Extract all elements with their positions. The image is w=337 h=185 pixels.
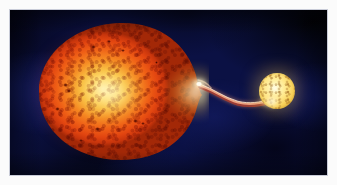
primary-star-core-glow xyxy=(75,63,149,123)
starspot xyxy=(79,139,83,142)
starspot xyxy=(67,89,71,93)
starspot xyxy=(91,45,96,49)
starspot xyxy=(141,122,145,125)
starspot xyxy=(121,49,125,52)
companion-star-limb xyxy=(259,73,295,109)
binary-star-illustration xyxy=(0,0,337,185)
starspot xyxy=(155,61,158,64)
starspot xyxy=(95,127,100,131)
starspot xyxy=(55,107,60,111)
starspot xyxy=(133,119,138,123)
starspot xyxy=(63,83,68,87)
red-giant-primary xyxy=(37,23,202,160)
starspot xyxy=(107,40,111,43)
space-background-plate xyxy=(10,10,327,175)
companion-accretor xyxy=(259,73,295,109)
primary-star-cusp-glow xyxy=(149,59,209,125)
